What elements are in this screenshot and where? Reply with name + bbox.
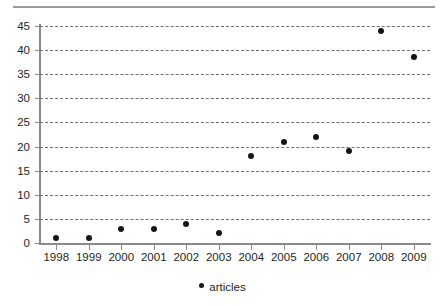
x-axis-tick-mark bbox=[381, 245, 382, 250]
x-axis-tick-mark bbox=[349, 245, 350, 250]
gridline bbox=[40, 122, 430, 123]
y-axis-tick-label: 5 bbox=[2, 213, 30, 225]
x-axis-tick-mark bbox=[316, 245, 317, 250]
x-axis-tick-mark bbox=[284, 245, 285, 250]
legend-label: articles bbox=[209, 281, 245, 293]
gridline bbox=[40, 26, 430, 27]
x-axis-tick-mark bbox=[89, 245, 90, 250]
y-axis-tick-label: 25 bbox=[2, 116, 30, 128]
data-point bbox=[86, 235, 92, 241]
x-axis-tick-mark bbox=[219, 245, 220, 250]
data-point bbox=[151, 226, 157, 232]
y-axis-tick-mark bbox=[35, 195, 40, 196]
x-axis-tick-mark bbox=[186, 245, 187, 250]
x-axis-tick-mark bbox=[251, 245, 252, 250]
gridline bbox=[40, 74, 430, 75]
x-axis-tick-mark bbox=[414, 245, 415, 250]
plot-area bbox=[40, 26, 430, 243]
y-axis-tick-mark bbox=[35, 243, 40, 244]
scatter-chart: 051015202530354045 199819992000200120022… bbox=[0, 0, 445, 306]
gridline bbox=[40, 50, 430, 51]
y-axis-tick-label: 0 bbox=[2, 237, 30, 249]
data-point bbox=[281, 139, 287, 145]
gridline bbox=[40, 147, 430, 148]
y-axis-tick-mark bbox=[35, 219, 40, 220]
y-axis-tick-mark bbox=[35, 147, 40, 148]
x-axis-tick-mark bbox=[154, 245, 155, 250]
y-axis-tick-mark bbox=[35, 74, 40, 75]
gridline bbox=[40, 171, 430, 172]
y-axis-tick-label: 10 bbox=[2, 189, 30, 201]
legend-item-articles: articles bbox=[199, 279, 245, 294]
y-axis-tick-label: 40 bbox=[2, 44, 30, 56]
gridline bbox=[40, 98, 430, 99]
x-axis-tick-mark bbox=[121, 245, 122, 250]
y-axis-tick-mark bbox=[35, 26, 40, 27]
gridline bbox=[40, 195, 430, 196]
data-point bbox=[183, 221, 189, 227]
chart-legend: articles bbox=[0, 279, 445, 294]
x-axis-tick-mark bbox=[56, 245, 57, 250]
y-axis-tick-label: 15 bbox=[2, 165, 30, 177]
y-axis-tick-mark bbox=[35, 122, 40, 123]
y-axis-tick-label: 35 bbox=[2, 68, 30, 80]
y-axis-tick-label: 20 bbox=[2, 141, 30, 153]
y-axis-tick-mark bbox=[35, 171, 40, 172]
legend-marker-icon bbox=[199, 283, 204, 288]
y-axis-tick-label: 30 bbox=[2, 92, 30, 104]
x-axis-line bbox=[39, 243, 431, 245]
x-axis-tick-label: 2009 bbox=[391, 251, 437, 264]
y-axis-tick-label: 45 bbox=[2, 20, 30, 32]
y-axis-tick-mark bbox=[35, 98, 40, 99]
data-point bbox=[118, 226, 124, 232]
gridline bbox=[40, 219, 430, 220]
y-axis-tick-mark bbox=[35, 50, 40, 51]
